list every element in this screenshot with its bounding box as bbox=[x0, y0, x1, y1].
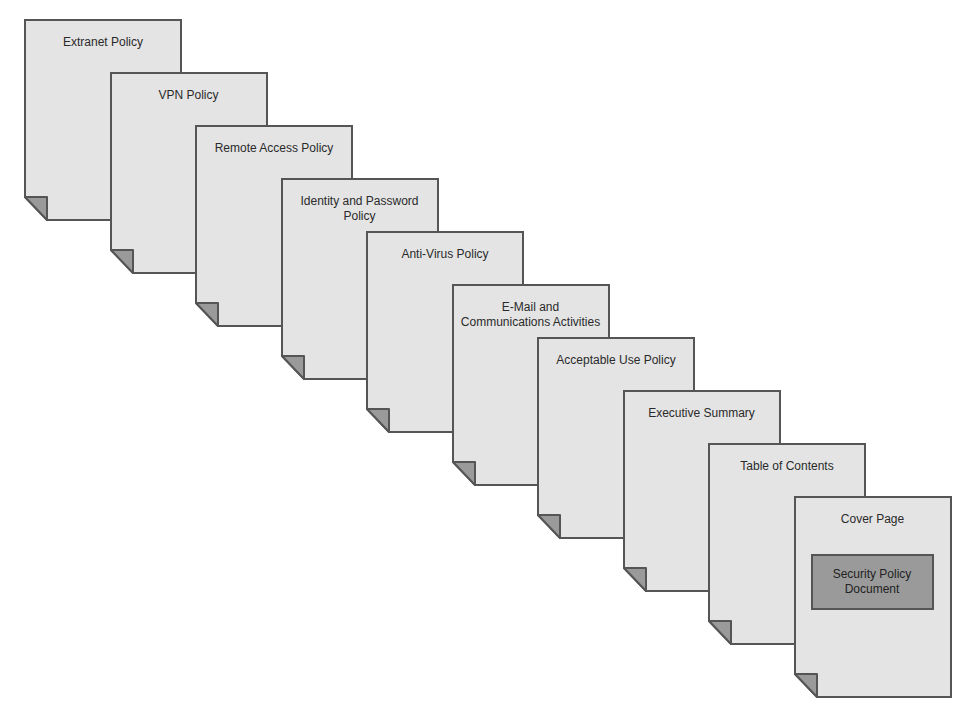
page-title: Table of Contents bbox=[714, 459, 860, 474]
page-title: Acceptable Use Policy bbox=[543, 353, 689, 368]
page-title: Extranet Policy bbox=[30, 35, 176, 50]
folded-corner-icon bbox=[795, 674, 817, 697]
folded-corner-icon bbox=[709, 621, 731, 644]
page-title: VPN Policy bbox=[116, 88, 262, 103]
page-cover-page: Cover PageSecurity Policy Document bbox=[794, 496, 952, 698]
page-title: Executive Summary bbox=[629, 406, 775, 421]
folded-corner-icon bbox=[624, 568, 646, 591]
folded-corner-icon bbox=[111, 250, 133, 273]
folded-corner-icon bbox=[282, 356, 304, 379]
folded-corner-icon bbox=[453, 462, 475, 485]
folded-corner-icon bbox=[367, 409, 389, 432]
page-title: E-Mail and Communications Activities bbox=[458, 300, 604, 330]
page-title: Anti-Virus Policy bbox=[372, 247, 518, 262]
cover-title-box: Security Policy Document bbox=[811, 554, 934, 610]
folded-corner-icon bbox=[196, 303, 218, 326]
page-title: Cover Page bbox=[800, 512, 946, 527]
folded-corner-icon bbox=[25, 197, 47, 220]
page-title: Identity and Password Policy bbox=[287, 194, 433, 224]
page-title: Remote Access Policy bbox=[201, 141, 347, 156]
folded-corner-icon bbox=[538, 515, 560, 538]
